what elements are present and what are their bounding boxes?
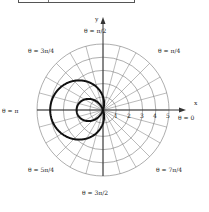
label-theta-3pi-2: θ = 3π/2 <box>82 189 108 196</box>
tick-2: 2 <box>127 112 131 119</box>
polar-graph: y x 1 2 3 4 5 θ = 0 θ = π/4 θ = π/2 θ = … <box>0 0 209 212</box>
tick-5: 5 <box>166 112 170 119</box>
radial-ticks: 1 2 3 4 5 <box>114 112 170 119</box>
label-theta-3pi-4: θ = 3π/4 <box>28 47 54 54</box>
label-theta-pi: θ = π <box>2 107 18 114</box>
label-theta-0: θ = 0 <box>178 114 194 121</box>
label-theta-7pi-4: θ = 7π/4 <box>156 166 182 173</box>
x-axis-label: x <box>194 99 198 106</box>
label-theta-pi-2: θ = π/2 <box>84 27 106 34</box>
label-theta-5pi-4: θ = 5π/4 <box>28 166 54 173</box>
x-axis-arrow-icon <box>179 108 186 113</box>
tick-4: 4 <box>153 112 157 119</box>
label-theta-pi-4: θ = π/4 <box>158 47 180 54</box>
y-axis-label: y <box>94 15 99 23</box>
tick-1: 1 <box>114 112 118 119</box>
tick-3: 3 <box>140 112 144 119</box>
axes <box>37 17 186 176</box>
y-axis-arrow-icon <box>101 17 106 24</box>
